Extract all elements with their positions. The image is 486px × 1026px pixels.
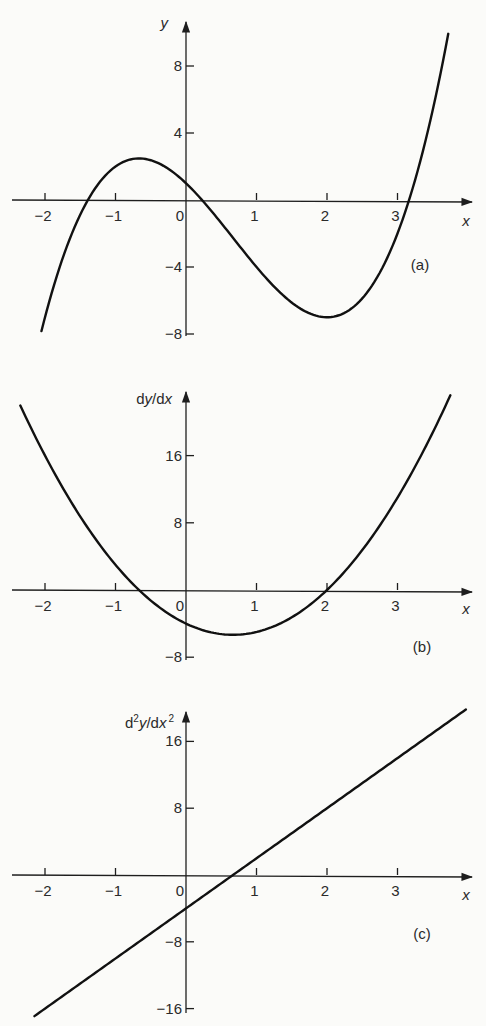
x-tick-label: −1 bbox=[105, 597, 122, 614]
panel-label: (c) bbox=[413, 925, 431, 942]
y-tick-label: 8 bbox=[174, 514, 182, 531]
y-tick-label: −8 bbox=[165, 648, 182, 665]
panel-c: −2−10123168−8−16d2y/dx2x(c) bbox=[12, 710, 472, 1017]
y-tick-label: 8 bbox=[174, 799, 182, 816]
x-tick-label: 1 bbox=[250, 597, 258, 614]
x-tick-label: −1 bbox=[105, 882, 122, 899]
y-tick-label: 16 bbox=[165, 447, 182, 464]
x-axis-label: x bbox=[461, 600, 470, 617]
x-tick-label: 0 bbox=[176, 882, 184, 899]
x-tick-label: 3 bbox=[391, 207, 399, 224]
x-tick-label: 0 bbox=[176, 207, 184, 224]
x-tick-label: −2 bbox=[34, 597, 51, 614]
panel-a: −2−1012384−4−8yx(a) bbox=[12, 14, 472, 342]
function-curve bbox=[20, 395, 450, 635]
x-axis bbox=[12, 200, 472, 202]
x-tick-label: −2 bbox=[34, 207, 51, 224]
function-curve bbox=[34, 710, 465, 1017]
x-axis-label: x bbox=[461, 886, 470, 903]
x-tick-label: 1 bbox=[250, 207, 258, 224]
x-tick-label: 1 bbox=[250, 882, 258, 899]
panel-label: (a) bbox=[411, 256, 429, 273]
panel-b: −2−10123168−8dy/dxx(b) bbox=[12, 390, 472, 665]
x-tick-label: −1 bbox=[105, 207, 122, 224]
panel-label: (b) bbox=[413, 638, 431, 655]
x-tick-label: 0 bbox=[176, 597, 184, 614]
x-axis-label: x bbox=[461, 212, 470, 229]
x-tick-label: 2 bbox=[321, 882, 329, 899]
function-curve bbox=[41, 34, 448, 331]
y-tick-label: 4 bbox=[174, 124, 182, 141]
y-tick-label: −4 bbox=[165, 258, 182, 275]
x-axis bbox=[12, 590, 472, 592]
y-tick-label: −8 bbox=[165, 325, 182, 342]
x-tick-label: 2 bbox=[321, 597, 329, 614]
y-tick-label: −16 bbox=[157, 1000, 182, 1017]
y-tick-label: −8 bbox=[165, 933, 182, 950]
figure: −2−1012384−4−8yx(a) −2−10123168−8dy/dxx(… bbox=[0, 0, 486, 1026]
x-tick-label: 2 bbox=[321, 207, 329, 224]
y-tick-label: 8 bbox=[174, 57, 182, 74]
x-tick-label: 3 bbox=[391, 597, 399, 614]
y-tick-label: 16 bbox=[165, 732, 182, 749]
y-axis-label: d2y/dx2 bbox=[125, 713, 174, 731]
y-axis-label: y bbox=[160, 14, 170, 31]
x-tick-label: 3 bbox=[391, 882, 399, 899]
x-tick-label: −2 bbox=[34, 882, 51, 899]
x-axis bbox=[12, 875, 472, 877]
y-axis-label: dy/dx bbox=[136, 390, 172, 407]
